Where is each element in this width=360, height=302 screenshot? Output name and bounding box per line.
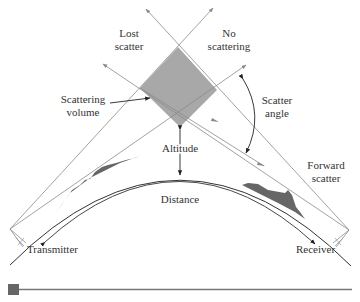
label-scatter-angle-1: Scatter (262, 94, 293, 106)
label-scattering-volume-1: Scattering (61, 93, 106, 105)
label-receiver: Receiver (296, 243, 335, 255)
label-no-scattering-1: No (222, 27, 236, 39)
label-scatter-angle-2: angle (265, 107, 289, 119)
distance-arc (45, 181, 315, 244)
label-forward-scatter-1: Forward (307, 159, 345, 171)
label-no-scattering-2: scattering (208, 40, 251, 52)
terrain-left (55, 156, 140, 214)
bottom-bar-square (8, 284, 19, 295)
label-transmitter: Transmitter (27, 243, 78, 255)
label-forward-scatter-2: scatter (312, 172, 341, 184)
label-lost-scatter-2: scatter (115, 40, 144, 52)
rx-beam-lower (103, 64, 349, 230)
label-altitude: Altitude (162, 142, 198, 154)
troposcatter-diagram: Lost scatter No scattering Scattering vo… (0, 0, 360, 302)
transmitter-antenna-icon (10, 229, 26, 247)
label-lost-scatter-1: Lost (119, 27, 139, 39)
label-scattering-volume-2: volume (67, 106, 100, 118)
label-distance: Distance (161, 193, 200, 205)
receiver-antenna-icon (333, 230, 349, 247)
terrain-right (242, 183, 305, 219)
tx-beam-upper (10, 65, 246, 229)
